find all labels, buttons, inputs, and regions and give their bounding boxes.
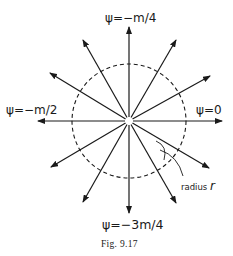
arrow-lower-left-steep (83, 124, 127, 202)
label-bottom: ψ=−3m/4 (102, 217, 164, 232)
label-top: ψ=−m/4 (105, 11, 156, 25)
arrow-upper-right-steep (131, 40, 176, 118)
label-left: ψ=−m/2 (6, 103, 57, 117)
source-flow-diagram: ψ=−m/4 ψ=−m/2 ψ=0 ψ=−3m/4 radius r Fig. … (0, 0, 233, 256)
figure-caption: Fig. 9.17 (101, 239, 138, 249)
arrow-lower-right-shallow (132, 123, 209, 168)
radius-leader-line (160, 150, 183, 176)
source-center (126, 118, 133, 125)
label-radius: radius r (181, 179, 216, 193)
label-right: ψ=0 (196, 103, 222, 117)
radius-symbol: r (210, 179, 216, 193)
radius-word: radius (181, 182, 210, 192)
arrow-lower-right-steep (131, 124, 176, 203)
